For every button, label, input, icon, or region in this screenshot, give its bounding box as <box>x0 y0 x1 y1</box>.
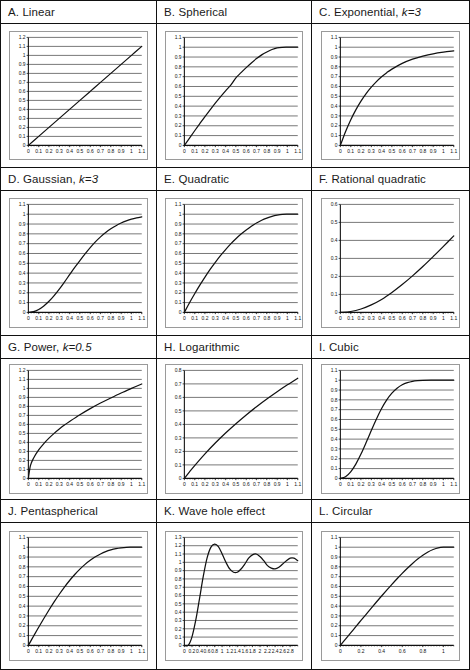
ytick-label: 0.8 <box>175 232 182 237</box>
ytick-label: 0 <box>179 143 182 148</box>
ytick-label: 0.4 <box>331 604 338 609</box>
ytick-label: 0.5 <box>331 594 338 599</box>
ytick-label: 1.1 <box>331 535 338 540</box>
xtick-label: 0.3 <box>56 148 63 153</box>
xtick-label: 0.7 <box>253 148 260 153</box>
panel-letter: J. <box>8 505 17 517</box>
xtick-label: 0.1 <box>348 482 355 487</box>
plot-area-h: 00.10.20.30.40.50.60.70.800.10.20.30.40.… <box>157 359 311 499</box>
xtick-label: 0.5 <box>232 482 239 487</box>
ytick-label: 0.6 <box>175 594 182 599</box>
xtick-label: 1.1 <box>139 482 146 487</box>
ytick-label: 0.9 <box>175 55 182 60</box>
xtick-label: 0.3 <box>56 482 63 487</box>
xtick-label: 0.3 <box>212 482 219 487</box>
xtick-label: 0.1 <box>36 148 43 153</box>
plot-svg-h: 00.10.20.30.40.50.60.70.800.10.20.30.40.… <box>166 365 302 492</box>
xtick-label: 0.1 <box>191 148 198 153</box>
xtick-label: 0.2 <box>46 482 53 487</box>
data-curve <box>184 544 297 646</box>
panel-k-wave-hole-effect: K. Wave hole effect00.10.20.30.40.50.60.… <box>157 500 312 670</box>
xtick-label: 0.8 <box>108 148 115 153</box>
xtick-label: 0.7 <box>253 482 260 487</box>
ytick-label: 0.4 <box>175 610 182 615</box>
xtick-label: 0.2 <box>201 148 208 153</box>
plot-svg-j: 00.10.20.30.40.50.60.70.80.911.100.10.20… <box>10 532 146 659</box>
xtick-label: 0 <box>27 482 30 487</box>
ytick-label: 0.7 <box>19 413 26 418</box>
axis-spines <box>184 205 297 313</box>
xtick-label: 0.4 <box>67 316 74 321</box>
axis-spines <box>29 205 142 313</box>
ytick-label: 1.3 <box>175 535 182 540</box>
plot-area-c: 00.10.20.30.40.50.60.70.80.911.100.10.20… <box>312 24 469 167</box>
xtick-label: 1 <box>286 148 289 153</box>
ytick-label: 0.4 <box>331 104 338 109</box>
xtick-label: 0.2 <box>201 482 208 487</box>
xtick-label: 0.1 <box>348 316 355 321</box>
ytick-label: 0.7 <box>175 242 182 247</box>
ytick-label: 0.6 <box>331 584 338 589</box>
xtick-label: 1 <box>131 316 134 321</box>
panel-letter: L. <box>319 505 329 517</box>
panel-model-name: Linear <box>22 6 55 18</box>
xtick-label: 0.6 <box>87 649 94 654</box>
ytick-label: 0.8 <box>331 64 338 69</box>
ytick-label: 0.7 <box>19 80 26 85</box>
plot-area-f: 00.10.20.30.40.50.600.10.20.30.40.50.60.… <box>312 191 469 335</box>
xtick-label: 0.9 <box>118 482 125 487</box>
xtick-label: 1 <box>131 649 134 654</box>
ytick-label: 0.6 <box>331 202 338 207</box>
xtick-label: 0.7 <box>98 649 105 654</box>
xtick-label: 0.5 <box>77 482 84 487</box>
ytick-label: 0.1 <box>331 292 338 297</box>
ytick-label: 0.8 <box>19 71 26 76</box>
panel-letter: E. <box>164 173 175 185</box>
xtick-label: 0.1 <box>348 148 355 153</box>
plot-frame: 00.10.20.30.40.50.60.70.80.911.11.21.300… <box>165 531 303 660</box>
xtick-label: 1 <box>443 482 446 487</box>
xtick-label: 2.8 <box>287 649 294 654</box>
xtick-label: 0.5 <box>77 148 84 153</box>
ytick-label: 0.5 <box>331 94 338 99</box>
ytick-label: 0.8 <box>175 64 182 69</box>
plot-frame: 00.10.20.30.40.50.60.70.80.911.100.20.40… <box>321 531 459 660</box>
xtick-label: 0.4 <box>67 482 74 487</box>
xtick-label: 0 <box>183 148 186 153</box>
data-curve <box>29 46 142 145</box>
xtick-label: 0 <box>339 148 342 153</box>
panel-model-name: Spherical <box>178 6 227 18</box>
xtick-label: 0.3 <box>368 148 375 153</box>
ytick-label: 0.1 <box>175 463 182 468</box>
ytick-label: 0.1 <box>175 133 182 138</box>
ytick-label: 0 <box>23 310 26 315</box>
xtick-label: 1.1 <box>139 316 146 321</box>
panel-title-g: G. Power, k=0.5 <box>1 336 156 359</box>
xtick-label: 0.2 <box>201 316 208 321</box>
ytick-label: 0 <box>179 310 182 315</box>
xtick-label: 0.6 <box>87 482 94 487</box>
ytick-label: 0.4 <box>19 440 26 445</box>
xtick-label: 0.4 <box>67 649 74 654</box>
panel-model-name: Wave hole effect <box>178 505 265 517</box>
xtick-label: 0.8 <box>420 148 427 153</box>
ytick-label: 0.1 <box>175 301 182 306</box>
xtick-label: 0.1 <box>191 482 198 487</box>
xtick-label: 0.9 <box>430 482 437 487</box>
xtick-label: 0.7 <box>410 482 417 487</box>
ytick-label: 0.8 <box>175 368 182 373</box>
ytick-label: 0.5 <box>19 431 26 436</box>
ytick-label: 0.9 <box>331 555 338 560</box>
xtick-label: 0.4 <box>379 148 386 153</box>
ytick-label: 0.3 <box>175 436 182 441</box>
panel-letter: D. <box>8 173 20 185</box>
ytick-label: 0.4 <box>331 238 338 243</box>
xtick-label: 0.6 <box>87 316 94 321</box>
data-curve <box>29 384 142 478</box>
ytick-label: 1.2 <box>19 35 26 40</box>
ytick-label: 0.4 <box>19 107 26 112</box>
plot-frame: 00.10.20.30.40.50.60.70.80.911.100.10.20… <box>165 198 303 327</box>
ytick-label: 1 <box>335 45 338 50</box>
xtick-label: 0.5 <box>389 482 396 487</box>
xtick-label: 0.2 <box>358 316 365 321</box>
